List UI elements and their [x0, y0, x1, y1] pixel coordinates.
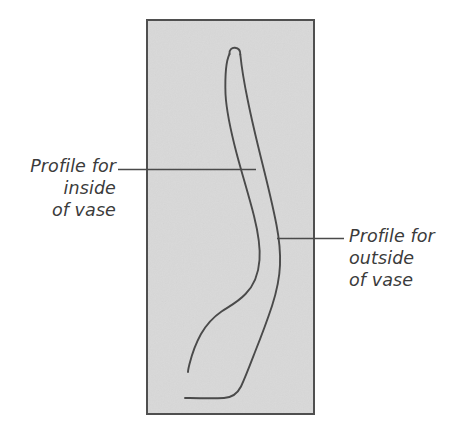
panel-texture [147, 20, 314, 414]
outside-label-line-2: outside [349, 247, 459, 269]
outside-label-line-1: Profile for [349, 225, 459, 247]
inside-label-line-3: of vase [0, 199, 116, 221]
outside-profile-label: Profile for outside of vase [349, 225, 459, 291]
inside-label-line-1: Profile for [0, 155, 116, 177]
outside-label-line-3: of vase [349, 269, 459, 291]
inside-label-line-2: inside [0, 177, 116, 199]
figure-canvas: Profile for inside of vase Profile for o… [0, 0, 459, 432]
inside-profile-label: Profile for inside of vase [0, 155, 116, 221]
